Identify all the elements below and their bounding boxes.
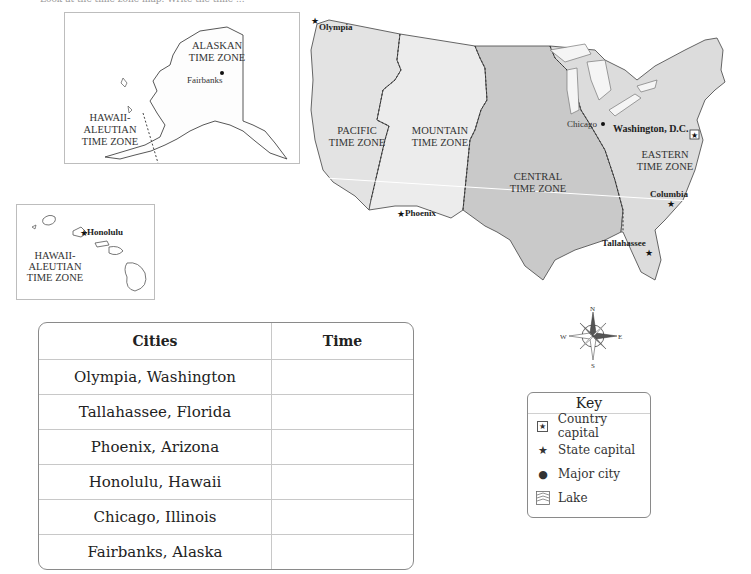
city-cell: Chicago, Illinois	[39, 500, 272, 535]
cropped-instruction-text: Look at the time zone map. Write the tim…	[40, 0, 340, 4]
honolulu-label: Honolulu	[87, 227, 123, 237]
mountain-zone-label-2: TIME ZONE	[412, 137, 468, 148]
hawaii-map-shape: ★ Honolulu HAWAII- ALEUTIAN TIME ZONE	[17, 205, 154, 299]
compass-n-label: N	[590, 305, 595, 313]
alaskan-zone-label-2: TIME ZONE	[189, 52, 245, 63]
time-answer-cell[interactable]	[272, 360, 414, 395]
chicago-label: Chicago	[567, 119, 597, 129]
key-item-label: State capital	[558, 443, 635, 457]
olympia-label: Olympia	[319, 22, 353, 32]
table-header-row: Cities Time	[39, 323, 413, 360]
eastern-zone-label-2: TIME ZONE	[637, 161, 693, 172]
major-city-dot-icon: ●	[536, 467, 550, 481]
state-capital-star-icon: ★	[311, 16, 319, 26]
central-zone-label-1: CENTRAL	[514, 171, 562, 182]
table-row: Honolulu, Hawaii	[39, 465, 413, 500]
pacific-zone-label-1: PACIFIC	[337, 125, 376, 136]
state-capital-star-icon: ★	[645, 248, 653, 258]
key-item-label: Major city	[558, 467, 620, 481]
time-answer-cell[interactable]	[272, 465, 414, 500]
hawaii-aleutian-zone-label-1: HAWAII-	[89, 112, 131, 123]
key-title: Key	[528, 393, 650, 414]
major-city-dot-icon	[601, 122, 605, 126]
time-answer-cell[interactable]	[272, 535, 414, 569]
phoenix-label: Phoenix	[405, 208, 437, 218]
table-row: Chicago, Illinois	[39, 500, 413, 535]
compass-w-label: W	[560, 333, 567, 341]
alaskan-zone-label-1: ALASKAN	[192, 40, 243, 51]
state-capital-star-icon: ★	[397, 209, 405, 219]
alaska-map-shape: ALASKAN TIME ZONE Fairbanks HAWAII- ALEU…	[65, 13, 299, 163]
key-item-country-capital: ★ Country capital	[528, 414, 650, 438]
country-capital-star-icon: ★	[691, 131, 698, 140]
time-answer-cell[interactable]	[272, 430, 414, 465]
hawaii-aleutian-zone-label-3: TIME ZONE	[82, 136, 138, 147]
table-row: Phoenix, Arizona	[39, 430, 413, 465]
city-cell: Tallahassee, Florida	[39, 395, 272, 430]
mountain-zone-label-1: MOUNTAIN	[412, 125, 469, 136]
eastern-zone-label-1: EASTERN	[641, 149, 689, 160]
tallahassee-label: Tallahassee	[602, 238, 646, 248]
time-answer-cell[interactable]	[272, 500, 414, 535]
key-item-lake: Lake	[528, 486, 650, 510]
hawaii-zone-label-2: ALEUTIAN	[28, 261, 81, 272]
city-cell: Fairbanks, Alaska	[39, 535, 272, 569]
header-cities: Cities	[39, 323, 272, 360]
key-item-label: Country capital	[558, 412, 650, 440]
table-row: Olympia, Washington	[39, 360, 413, 395]
compass-e-label: E	[618, 333, 622, 341]
key-item-major-city: ● Major city	[528, 462, 650, 486]
columbia-label: Columbia	[650, 189, 689, 199]
country-capital-icon: ★	[536, 419, 550, 433]
alaska-inset-map: ALASKAN TIME ZONE Fairbanks HAWAII- ALEU…	[64, 12, 300, 164]
map-key: Key ★ Country capital ★ State capital ● …	[527, 392, 651, 518]
compass-rose-icon: N S E W	[560, 302, 630, 372]
state-capital-star-icon: ★	[667, 199, 675, 209]
city-cell: Olympia, Washington	[39, 360, 272, 395]
compass-s-label: S	[591, 362, 595, 370]
header-time: Time	[272, 323, 414, 360]
us-map-shape: PACIFIC TIME ZONE MOUNTAIN TIME ZONE CEN…	[305, 10, 751, 300]
state-capital-star-icon: ★	[536, 443, 550, 457]
time-answer-cell[interactable]	[272, 395, 414, 430]
pacific-zone-label-2: TIME ZONE	[329, 137, 385, 148]
hawaii-zone-label-3: TIME ZONE	[27, 272, 83, 283]
cities-time-table: Cities Time Olympia, Washington Tallahas…	[38, 322, 414, 570]
table-row: Tallahassee, Florida	[39, 395, 413, 430]
lake-wave-icon	[536, 491, 550, 505]
hawaii-inset-map: ★ Honolulu HAWAII- ALEUTIAN TIME ZONE	[16, 204, 155, 300]
fairbanks-label: Fairbanks	[187, 75, 223, 85]
washington-dc-label: Washington, D.C.	[613, 123, 689, 134]
hawaii-zone-label-1: HAWAII-	[34, 250, 76, 261]
table-row: Fairbanks, Alaska	[39, 535, 413, 569]
city-cell: Phoenix, Arizona	[39, 430, 272, 465]
hawaii-aleutian-zone-label-2: ALEUTIAN	[83, 124, 136, 135]
city-cell: Honolulu, Hawaii	[39, 465, 272, 500]
compass-rose: N S E W	[560, 302, 630, 372]
central-zone-label-2: TIME ZONE	[510, 183, 566, 194]
key-item-label: Lake	[558, 491, 588, 505]
key-item-state-capital: ★ State capital	[528, 438, 650, 462]
us-time-zone-map: PACIFIC TIME ZONE MOUNTAIN TIME ZONE CEN…	[305, 10, 751, 300]
